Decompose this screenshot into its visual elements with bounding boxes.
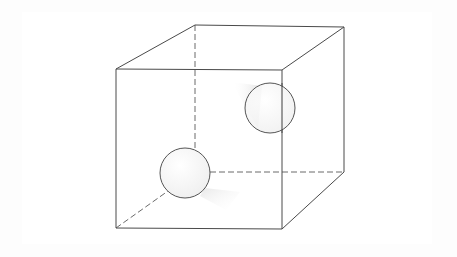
bottom-right-diagonal-edge — [282, 172, 344, 229]
bottom-left-diagonal-edge — [116, 191, 168, 228]
top-right-diagonal-edge — [282, 27, 344, 70]
back-top-edge — [195, 25, 344, 27]
top-left-diagonal-edge — [116, 25, 195, 69]
sphere-left — [160, 148, 210, 198]
shadow-left-sphere — [200, 188, 240, 210]
cube-diagram — [0, 0, 457, 257]
sphere-right — [245, 83, 295, 133]
